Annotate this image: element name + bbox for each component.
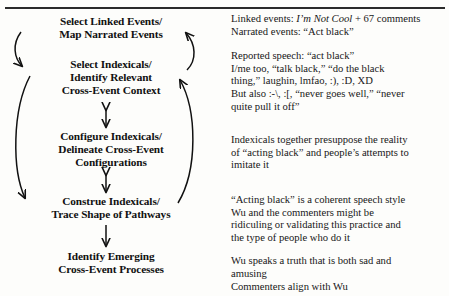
text-run: quite pull it off” [231, 101, 299, 112]
commentary-line: Commenters align with Wu [231, 281, 447, 294]
text-run: ridiculing or validating this practice a… [231, 219, 401, 230]
node-line: Trace Shape of Pathways [11, 208, 211, 221]
commentary-line: I/me too, “talk black,” “do the black [231, 63, 447, 76]
text-run: imitate it [231, 159, 269, 170]
commentary-line: quite pull it off” [231, 101, 447, 114]
text-run: Wu and the commenters might be [231, 207, 374, 218]
text-run: thing,” laughin, lmfao, :), :D, XD [231, 75, 373, 86]
text-run: Indexicals together presuppose the reali… [231, 134, 408, 145]
top-horizontal-rule [5, 7, 445, 9]
text-run: amusing [231, 268, 267, 279]
text-run: Reported speech: “act black” [231, 50, 354, 61]
diagram-node-construe-indexicals: Construe Indexicals/ Trace Shape of Path… [11, 195, 211, 221]
node-line: Cross-Event Context [11, 84, 211, 97]
node-line: Select Linked Events/ [11, 15, 211, 28]
node-line: Identify Relevant [11, 71, 211, 84]
commentary-line: Wu speaks a truth that is both sad and [231, 255, 447, 268]
diagram-node-select-linked-events: Select Linked Events/ Map Narrated Event… [11, 15, 211, 41]
commentary-line: Indexicals together presuppose the reali… [231, 134, 447, 147]
diagram-node-select-indexicals: Select Indexicals/ Identify Relevant Cro… [11, 58, 211, 98]
text-run: “Acting black” is a coherent speech styl… [231, 194, 405, 205]
text-run: + 67 comments [352, 13, 420, 24]
text-run: Commenters align with Wu [231, 281, 348, 292]
commentary-column: Linked events: I’m Not Cool + 67 comment… [231, 13, 447, 296]
flow-diagram: Select Linked Events/ Map Narrated Event… [0, 10, 222, 289]
commentary-line: imitate it [231, 159, 447, 172]
node-line: Configure Indexicals/ [11, 130, 211, 143]
text-run: Linked events: [231, 13, 296, 24]
commentary-line: of “acting black” and people’s attempts … [231, 147, 447, 160]
text-run: Narrated events: “Act black” [231, 26, 354, 37]
commentary-line: the type of people who do it [231, 232, 447, 245]
commentary-line: But also :-\, :[, “never goes well,” “ne… [231, 88, 447, 101]
node-line: Cross-Event Processes [11, 263, 211, 276]
node-line: Identify Emerging [11, 250, 211, 263]
text-run: Wu speaks a truth that is both sad and [231, 255, 391, 266]
text-run: But also :-\, :[, “never goes well,” “ne… [231, 88, 405, 99]
text-run: of “acting black” and people’s attempts … [231, 147, 409, 158]
node-line: Map Narrated Events [11, 28, 211, 41]
commentary-paragraph-indexicals-presuppose: Indexicals together presuppose the reali… [231, 134, 447, 172]
node-line: Construe Indexicals/ [11, 195, 211, 208]
italic-title: I’m Not Cool [296, 13, 352, 24]
commentary-paragraph-reported-speech: Reported speech: “act black”I/me too, “t… [231, 50, 447, 113]
commentary-line: Reported speech: “act black” [231, 50, 447, 63]
text-run: the type of people who do it [231, 232, 350, 243]
diagram-node-identify-emerging: Identify Emerging Cross-Event Processes [11, 250, 211, 276]
commentary-line: thing,” laughin, lmfao, :), :D, XD [231, 75, 447, 88]
commentary-paragraph-wu-speaks-truth: Wu speaks a truth that is both sad andam… [231, 255, 447, 293]
commentary-line: amusing [231, 268, 447, 281]
diagram-node-configure-indexicals: Configure Indexicals/ Delineate Cross-Ev… [11, 130, 211, 170]
commentary-paragraph-linked-narrated-events: Linked events: I’m Not Cool + 67 comment… [231, 13, 447, 38]
text-run: I/me too, “talk black,” “do the black [231, 63, 385, 74]
commentary-line: Linked events: I’m Not Cool + 67 comment… [231, 13, 447, 26]
commentary-line: Wu and the commenters might be [231, 207, 447, 220]
commentary-line: ridiculing or validating this practice a… [231, 219, 447, 232]
commentary-line: Narrated events: “Act black” [231, 26, 447, 39]
commentary-paragraph-acting-black-style: “Acting black” is a coherent speech styl… [231, 194, 447, 244]
node-line: Configurations [11, 156, 211, 169]
commentary-line: “Acting black” is a coherent speech styl… [231, 194, 447, 207]
node-line: Delineate Cross-Event [11, 143, 211, 156]
node-line: Select Indexicals/ [11, 58, 211, 71]
